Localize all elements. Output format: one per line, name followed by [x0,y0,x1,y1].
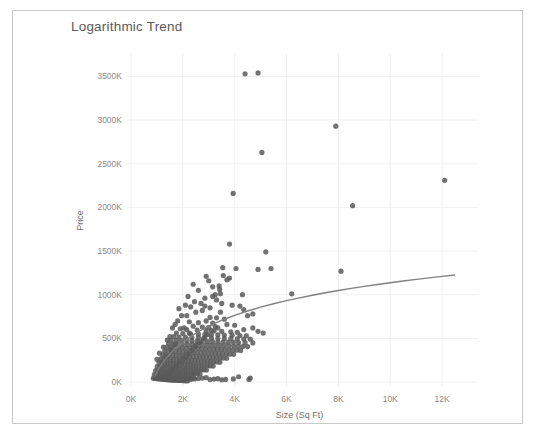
svg-text:4K: 4K [229,394,240,404]
svg-text:0K: 0K [112,377,123,387]
svg-text:1000K: 1000K [97,290,122,300]
chart-screenshot: Logarithmic Trend 0K500K1000K1500K2000K2… [0,0,534,437]
svg-text:2000K: 2000K [97,202,122,212]
x-axis-title: Size (Sq Ft) [276,410,324,420]
svg-text:0K: 0K [126,394,137,404]
svg-text:10K: 10K [383,394,398,404]
svg-text:2K: 2K [178,394,189,404]
svg-text:3500K: 3500K [97,71,122,81]
svg-text:6K: 6K [281,394,292,404]
x-axis-ticks: 0K2K4K6K8K10K12K [126,394,450,404]
svg-text:8K: 8K [333,394,344,404]
svg-text:500K: 500K [102,333,122,343]
y-axis-ticks: 0K500K1000K1500K2000K2500K3000K3500K [97,71,122,387]
scatter-points [151,70,448,383]
y-axis-title: Price [75,210,85,231]
svg-text:12K: 12K [435,394,450,404]
chart-frame: Logarithmic Trend 0K500K1000K1500K2000K2… [12,10,523,424]
svg-text:2500K: 2500K [97,159,122,169]
scatter-plot: 0K500K1000K1500K2000K2500K3000K3500K0K2K… [13,11,522,423]
svg-text:3000K: 3000K [97,115,122,125]
svg-text:1500K: 1500K [97,246,122,256]
